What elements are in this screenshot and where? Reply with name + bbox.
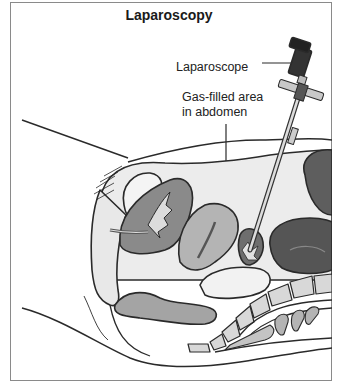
intestine-lower (270, 218, 332, 274)
body-contour-top (22, 120, 128, 158)
laparoscopy-illustration (0, 0, 338, 388)
pelvic-bones (275, 307, 319, 335)
perineal-structure (115, 293, 217, 325)
